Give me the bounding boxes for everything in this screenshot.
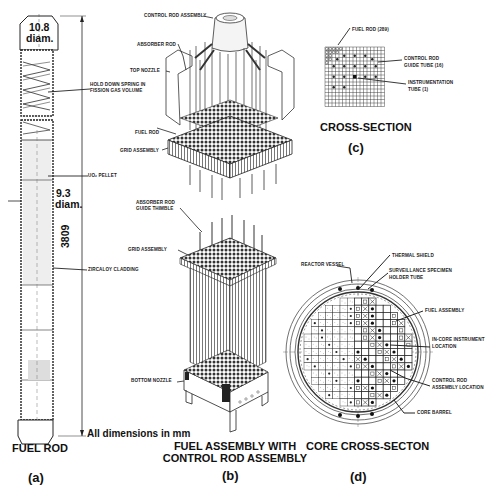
letter-d: (d)	[350, 469, 367, 484]
label-crl-1: CONTROL ROD	[432, 378, 467, 384]
caption-core-cross-section: CORE CROSS-SECTON	[306, 440, 420, 452]
label-incore-1: IN-CORE INSTRUMENT	[432, 337, 485, 343]
label-fuel-assembly: FUEL ASSEMBLY	[425, 308, 464, 314]
label-surveillance-1: SURVEILLANCE SPECIMEN	[389, 268, 452, 274]
label-incore-2: LOCATION	[432, 344, 456, 350]
label-surveillance-2: HOLDER TUBE	[389, 275, 423, 281]
label-crl-2: ASSEMBLY LOCATION	[432, 385, 484, 391]
label-thermal-shield: THERMAL SHIELD	[392, 253, 434, 259]
label-core-barrel: CORE BARREL	[417, 410, 452, 416]
label-reactor-vessel: REACTOR VESSEL	[301, 262, 344, 268]
core-drawing	[0, 0, 497, 493]
